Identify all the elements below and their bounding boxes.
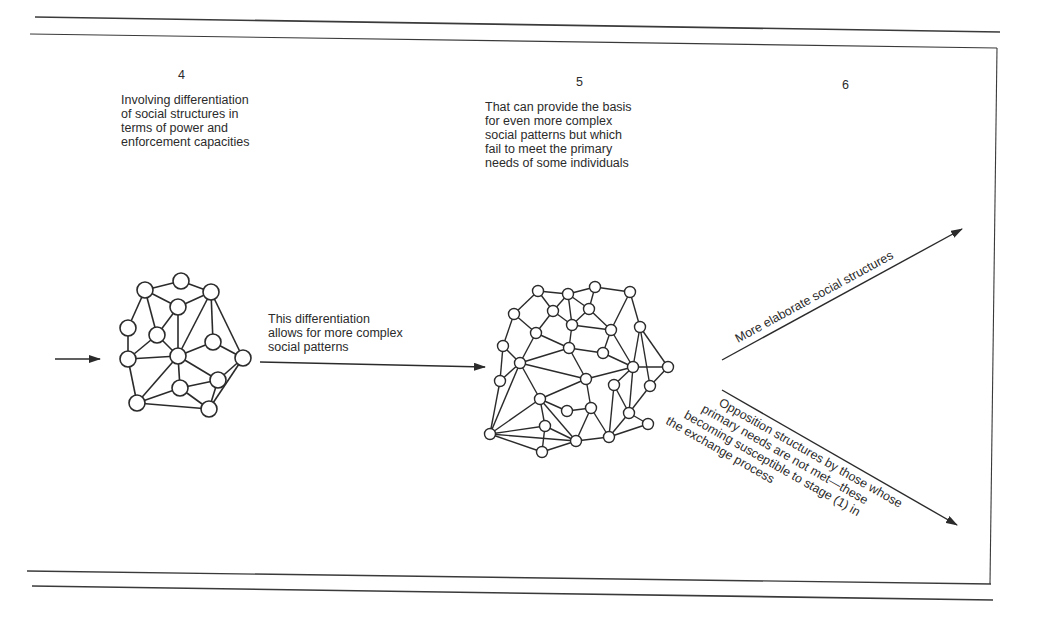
lower-branch-label: Opposition structures by those whose pri…: [664, 377, 905, 547]
diagram-figure: More elaborate social structures Opposit…: [0, 0, 1039, 617]
stage-4-caption: Involving differentiation of social stru…: [121, 93, 250, 149]
upper-branch-arrow: [722, 229, 962, 360]
stage-5-caption: That can provide the basis for even more…: [485, 100, 632, 170]
network-graph-stage-5: [485, 282, 674, 458]
upper-branch-label: More elaborate social structures: [733, 248, 896, 345]
differentiation-arrow: [260, 362, 485, 367]
stage-4-number: 4: [178, 68, 185, 82]
differentiation-label: This differentiation allows for more com…: [268, 312, 403, 354]
stage-5-number: 5: [576, 75, 583, 89]
network-graph-stage-4: [120, 273, 251, 417]
stage-6-number: 6: [842, 78, 849, 92]
